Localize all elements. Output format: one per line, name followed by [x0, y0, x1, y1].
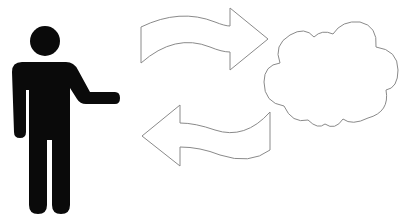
cloud-icon: [264, 22, 398, 127]
person-icon: [12, 26, 120, 214]
diagram-canvas: [0, 0, 405, 221]
arrow-right-icon: [141, 8, 268, 70]
arrow-left-icon: [142, 105, 270, 166]
